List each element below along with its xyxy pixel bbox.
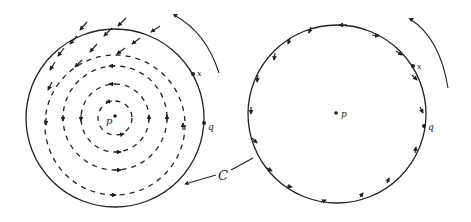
point-p-dot-right — [334, 111, 338, 115]
point-q-label: q — [208, 122, 214, 132]
left-boundary-circle — [26, 29, 204, 207]
diagram-canvas: p x q C — [0, 0, 471, 222]
point-p-label-right: p — [341, 109, 347, 119]
point-x-label-right: x — [417, 62, 422, 71]
point-p-dot — [113, 114, 117, 118]
point-q-label-right: q — [428, 122, 434, 132]
point-x-dot — [191, 72, 195, 76]
point-p-label: p — [106, 115, 113, 126]
point-x-label: x — [197, 69, 202, 78]
point-q-dot-right — [422, 124, 426, 128]
point-x-dot-right — [411, 64, 415, 68]
inflow-arrows — [48, 18, 160, 90]
right-panel: p x q — [248, 18, 448, 203]
c-pointer-left — [185, 175, 216, 184]
curve-c-label: C — [218, 168, 228, 183]
rotation-arc-left — [174, 15, 219, 73]
point-q-dot — [202, 121, 206, 125]
rotation-arc-right — [410, 19, 448, 88]
curve-c-label-group: C — [185, 158, 253, 184]
left-panel: p x q — [26, 14, 219, 207]
c-pointer-right — [231, 158, 253, 170]
flow-rings — [45, 55, 185, 195]
